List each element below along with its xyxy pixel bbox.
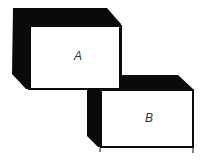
box-b-label: B [145,111,153,125]
box-a-label: A [73,49,82,63]
box-diagram: A B [0,0,201,163]
box-a: A [12,8,121,89]
box-b-top-depth [120,75,193,91]
box-b-left-depth [87,90,102,147]
